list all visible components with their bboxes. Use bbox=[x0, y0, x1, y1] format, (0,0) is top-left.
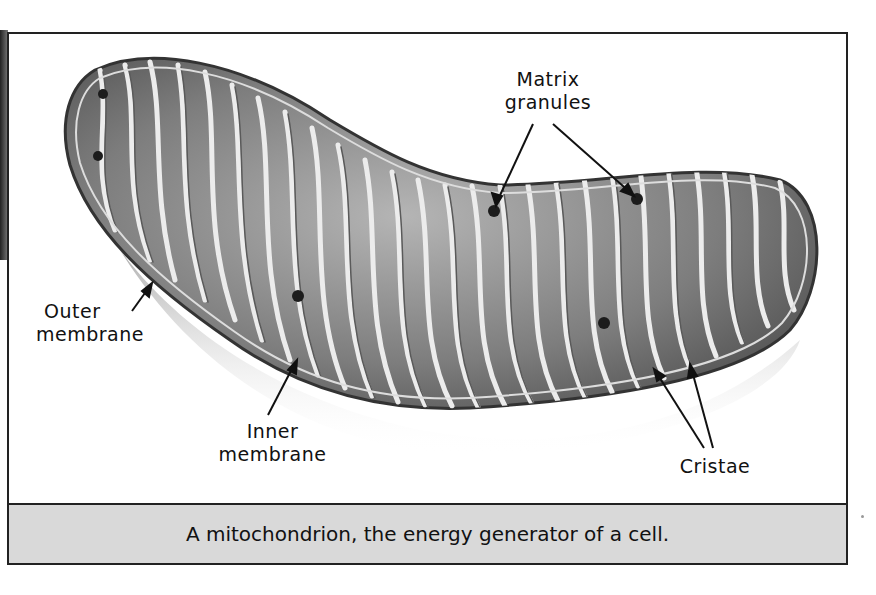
label-outer-membrane: Outer membrane bbox=[20, 300, 160, 346]
outer-membrane-shape bbox=[65, 58, 817, 408]
scan-speck bbox=[861, 515, 864, 518]
label-cristae: Cristae bbox=[660, 455, 770, 478]
label-inner-membrane: Inner membrane bbox=[200, 420, 345, 466]
mitochondrion-illustration bbox=[0, 0, 876, 595]
label-matrix-granules: Matrix granules bbox=[488, 68, 608, 114]
